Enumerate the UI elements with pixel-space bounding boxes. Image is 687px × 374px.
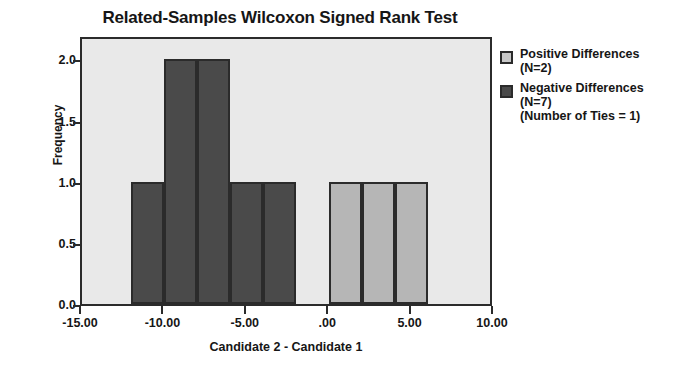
x-axis-tick-mark (161, 306, 163, 314)
legend-entry[interactable]: Positive Differences(N=2) (500, 48, 685, 75)
chart-legend: Positive Differences(N=2)Negative Differ… (500, 48, 685, 123)
plot-area (80, 37, 492, 306)
histogram-bar (230, 182, 263, 304)
y-axis-tick-label: 2.0 (36, 53, 76, 67)
y-axis-tick-mark (73, 244, 80, 246)
y-axis-tick-label: 0.5 (36, 237, 76, 251)
legend-ties-note: (Number of Ties = 1) (500, 109, 685, 123)
y-axis-tick-mark (73, 122, 80, 124)
x-axis-tick-mark (79, 306, 81, 314)
x-axis-tick-mark (326, 306, 328, 314)
legend-swatch-icon (500, 51, 513, 64)
legend-label: Positive Differences (520, 48, 685, 61)
histogram-bar (197, 59, 230, 304)
chart-title: Related-Samples Wilcoxon Signed Rank Tes… (0, 8, 560, 28)
histogram-bar (395, 182, 428, 304)
legend-count: (N=7) (520, 95, 685, 109)
wilcoxon-signed-rank-histogram: Related-Samples Wilcoxon Signed Rank Tes… (0, 0, 687, 374)
legend-swatch-icon (500, 85, 513, 98)
x-axis-tick-mark (409, 306, 411, 314)
histogram-bar (131, 182, 164, 304)
x-axis-tick-label: 5.00 (370, 316, 450, 330)
histogram-bar (164, 59, 197, 304)
legend-count: (N=2) (520, 61, 685, 75)
x-axis-tick-label: -5.00 (205, 316, 285, 330)
histogram-bar (329, 182, 362, 304)
x-axis-tick-label: -10.00 (122, 316, 202, 330)
histogram-bar (263, 182, 296, 304)
x-axis-tick-mark (491, 306, 493, 314)
legend-label: Negative Differences (520, 82, 685, 95)
y-axis-tick-mark (73, 60, 80, 62)
x-axis-tick-label: 10.00 (452, 316, 532, 330)
y-axis-tick-mark (73, 183, 80, 185)
bars-layer (82, 39, 490, 304)
y-axis-tick-label: 0.0 (36, 298, 76, 312)
legend-entry[interactable]: Negative Differences(N=7) (500, 82, 685, 109)
x-axis-title: Candidate 2 - Candidate 1 (80, 340, 492, 354)
histogram-bar (362, 182, 395, 304)
x-axis-tick-label: .00 (287, 316, 367, 330)
x-axis-tick-mark (244, 306, 246, 314)
y-axis-tick-label: 1.5 (36, 115, 76, 129)
x-axis-tick-label: -15.00 (40, 316, 120, 330)
y-axis-tick-label: 1.0 (36, 176, 76, 190)
